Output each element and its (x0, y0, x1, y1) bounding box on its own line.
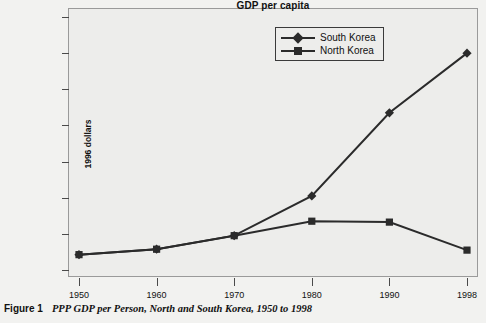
series-line-north-korea (79, 221, 467, 254)
figure-caption-text: PPP GDP per Person, North and South Kore… (52, 303, 312, 314)
legend-item-south-korea: South Korea (281, 31, 376, 44)
figure-caption-label: Figure 1 (4, 303, 43, 314)
x-tick-label: 1950 (49, 290, 109, 300)
x-tick-mark (79, 278, 80, 286)
series-line-south-korea (79, 53, 467, 254)
x-tick-mark (467, 278, 468, 286)
chart-title: GDP per capita (68, 0, 478, 11)
x-tick-label: 1998 (437, 290, 486, 300)
legend-label-north-korea: North Korea (320, 45, 374, 56)
y-tick-mark (62, 162, 69, 163)
x-tick-mark (312, 278, 313, 286)
legend-item-north-korea: North Korea (281, 44, 376, 57)
y-tick-mark (62, 125, 69, 126)
data-series-layer (69, 9, 479, 278)
y-tick-mark (62, 234, 69, 235)
data-point-marker (153, 246, 160, 253)
x-tick-label: 1990 (359, 290, 419, 300)
data-point-marker (386, 219, 393, 226)
x-tick-mark (234, 278, 235, 286)
x-tick-mark (157, 278, 158, 286)
plot-area: 1996 dollars 02,0004,0006,0008,00010,000… (68, 8, 478, 277)
figure-container: GDP per capita 1996 dollars 02,0004,0006… (0, 0, 486, 323)
chart-legend: South Korea North Korea (275, 27, 384, 61)
legend-swatch-diamond-icon (281, 32, 315, 44)
y-tick-mark (62, 17, 69, 18)
legend-swatch-square-icon (281, 45, 315, 57)
data-point-marker (308, 218, 315, 225)
figure-caption: Figure 1 PPP GDP per Person, North and S… (4, 303, 312, 314)
legend-label-south-korea: South Korea (320, 32, 376, 43)
x-tick-label: 1960 (127, 290, 187, 300)
y-tick-mark (62, 270, 69, 271)
y-tick-mark (62, 89, 69, 90)
data-point-marker (231, 232, 238, 239)
y-tick-mark (62, 53, 69, 54)
data-point-marker (463, 247, 470, 254)
x-tick-label: 1970 (204, 290, 264, 300)
x-tick-mark (389, 278, 390, 286)
x-tick-label: 1980 (282, 290, 342, 300)
y-tick-mark (62, 198, 69, 199)
data-point-marker (75, 251, 82, 258)
